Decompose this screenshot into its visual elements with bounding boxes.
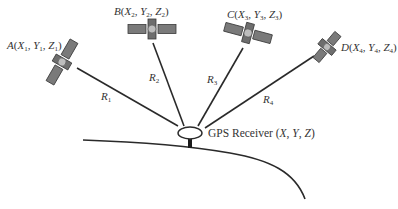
receiver-label: GPS Receiver (X, Y, Z) [208, 127, 315, 140]
gps-diagram: A(X1, Y1, Z1) B(X2, Y2, Z2) C(X3, Y3, Z3… [0, 0, 398, 209]
satellite-a-label: A(X1, Y1, Z1) [6, 39, 62, 53]
range-label-r3: R3 [206, 73, 218, 87]
satellite-d-icon [309, 28, 345, 66]
range-label-r4: R4 [262, 93, 274, 107]
range-label-r1: R1 [100, 90, 112, 104]
satellite-b-label: B(X2, Y2, Z2) [114, 5, 169, 19]
range-line-r3 [198, 48, 243, 126]
satellite-d-label: D(X4, Y4, Z4) [340, 41, 397, 55]
receiver-antenna-icon [178, 127, 202, 139]
range-label-r2: R2 [148, 71, 160, 85]
satellite-b-icon [128, 19, 176, 39]
satellite-c-label: C(X3, Y3, Z3) [227, 8, 283, 22]
earth-surface-curve [83, 140, 305, 199]
range-line-r4 [205, 56, 314, 128]
range-line-r1 [77, 68, 178, 126]
gps-receiver [178, 127, 202, 148]
